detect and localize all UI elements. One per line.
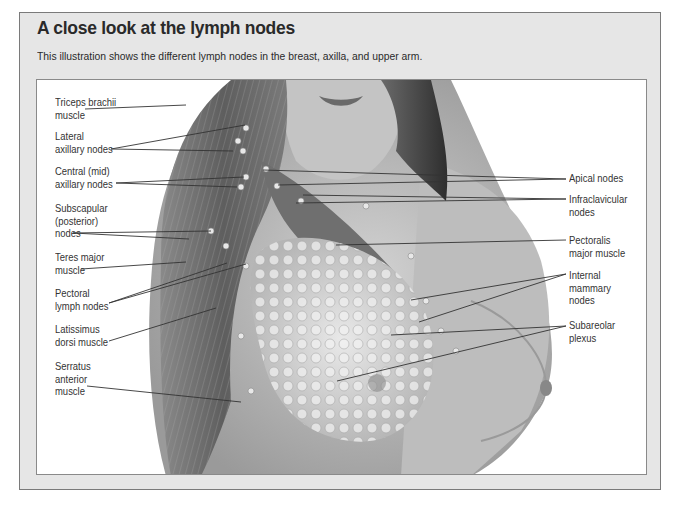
anatomy-illustration: Triceps brachiimuscle Lateralaxillary no…	[36, 79, 647, 475]
label-pectoral-lymph-nodes: Pectorallymph nodes	[55, 287, 109, 312]
label-subareolar-plexus: Subareolarplexus	[569, 319, 615, 344]
label-infraclavicular-nodes: Infraclavicularnodes	[569, 193, 627, 218]
label-lateral-axillary-nodes: Lateralaxillary nodes	[55, 130, 113, 155]
label-pectoralis-major-muscle: Pectoralismajor muscle	[569, 234, 625, 259]
label-teres-major-muscle: Teres majormuscle	[55, 251, 104, 276]
label-internal-mammary-nodes: Internalmammarynodes	[569, 269, 611, 307]
figure-title: A close look at the lymph nodes	[37, 17, 295, 39]
label-triceps-brachii-muscle: Triceps brachiimuscle	[55, 96, 116, 121]
figure-caption: This illustration shows the different ly…	[37, 50, 422, 62]
illustration-graphic	[37, 80, 647, 475]
label-apical-nodes: Apical nodes	[569, 172, 623, 185]
label-subscapular-nodes: Subscapular(posterior)nodes	[55, 202, 108, 240]
label-serratus-anterior-muscle: Serratusanteriormuscle	[55, 360, 91, 398]
label-central-axillary-nodes: Central (mid)axillary nodes	[55, 165, 113, 190]
label-latissimus-dorsi-muscle: Latissimusdorsi muscle	[55, 323, 108, 348]
